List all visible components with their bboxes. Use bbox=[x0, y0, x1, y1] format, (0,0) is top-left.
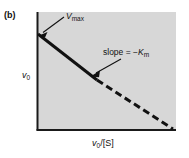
v-max-subscript: max bbox=[72, 15, 84, 22]
x-axis-label: v0/[S] bbox=[92, 138, 114, 148]
eadie-hofstee-figure: (b) Vmax slope = −Km v0 v bbox=[0, 0, 189, 158]
plot-background bbox=[37, 12, 176, 130]
v-max-variable: V bbox=[66, 11, 72, 21]
x-axis-denominator: /[S] bbox=[100, 138, 114, 148]
slope-prefix: slope = − bbox=[103, 47, 138, 57]
slope-km-variable: K bbox=[138, 47, 144, 57]
y-axis-subscript: 0 bbox=[27, 74, 31, 81]
slope-km-subscript: m bbox=[144, 51, 149, 58]
x-axis-subscript: 0 bbox=[97, 142, 101, 149]
v-max-annotation: Vmax bbox=[66, 11, 84, 21]
x-axis-variable: v bbox=[92, 138, 97, 148]
slope-annotation: slope = −Km bbox=[103, 47, 149, 57]
y-axis-variable: v bbox=[22, 70, 27, 80]
y-axis-label: v0 bbox=[22, 70, 30, 80]
